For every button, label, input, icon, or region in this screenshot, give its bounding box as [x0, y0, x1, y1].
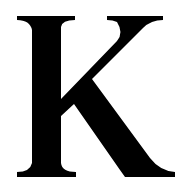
- letter-k-glyph: K: [0, 0, 182, 190]
- letter-k-icon: [0, 0, 182, 190]
